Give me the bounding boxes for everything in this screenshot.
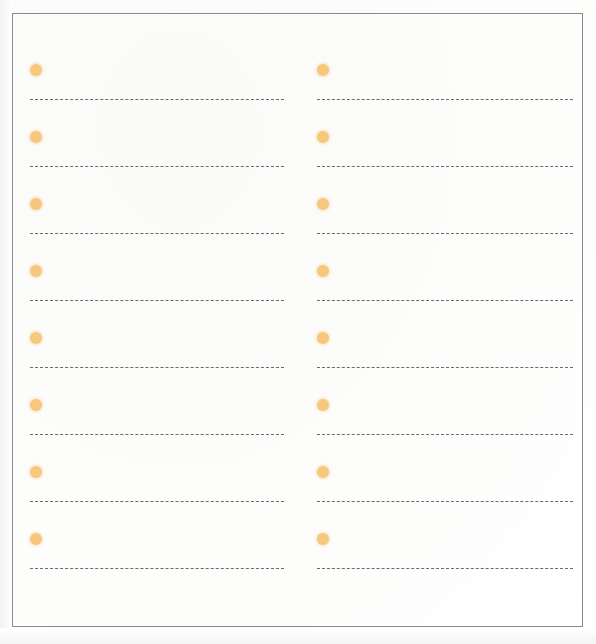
bullet-dot-icon: [317, 265, 329, 277]
bullet-dot-icon: [30, 265, 42, 277]
list-item[interactable]: [12, 227, 298, 294]
bullet-dot-icon: [317, 399, 329, 411]
bullet-dot-icon: [30, 466, 42, 478]
list-item[interactable]: [12, 428, 298, 495]
right-column: [298, 13, 583, 627]
list-item[interactable]: [298, 294, 583, 361]
dashed-writing-line[interactable]: [317, 568, 573, 571]
bullet-dot-icon: [317, 466, 329, 478]
dashed-writing-line[interactable]: [30, 568, 284, 571]
bullet-dot-icon: [30, 533, 42, 545]
bullet-dot-icon: [30, 198, 42, 210]
bullet-dot-icon: [317, 332, 329, 344]
scan-edge-shading-left: [0, 0, 12, 644]
list-item[interactable]: [12, 361, 298, 428]
scan-edge-shading-bottom: [0, 628, 596, 644]
list-item[interactable]: [12, 26, 298, 93]
bullet-dot-icon: [317, 533, 329, 545]
bullet-dot-icon: [30, 64, 42, 76]
list-item[interactable]: [298, 93, 583, 160]
list-item[interactable]: [298, 428, 583, 495]
bullet-dot-icon: [30, 131, 42, 143]
scanned-page: [0, 0, 596, 644]
list-item[interactable]: [12, 495, 298, 562]
bullet-dot-icon: [30, 332, 42, 344]
bullet-dot-icon: [30, 399, 42, 411]
bullet-dot-icon: [317, 198, 329, 210]
list-item[interactable]: [12, 294, 298, 361]
list-item[interactable]: [298, 26, 583, 93]
left-column: [12, 13, 298, 627]
list-item[interactable]: [298, 227, 583, 294]
list-item[interactable]: [298, 160, 583, 227]
bullet-list-columns: [12, 13, 583, 627]
bullet-dot-icon: [317, 64, 329, 76]
list-item[interactable]: [298, 495, 583, 562]
list-item[interactable]: [298, 361, 583, 428]
bullet-dot-icon: [317, 131, 329, 143]
list-item[interactable]: [12, 160, 298, 227]
list-item[interactable]: [12, 93, 298, 160]
